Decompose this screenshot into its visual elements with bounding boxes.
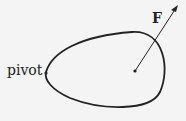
diagram: pivot F (0, 0, 186, 121)
body-outline (46, 32, 165, 107)
arrowhead-icon (171, 5, 178, 12)
force-label: F (152, 10, 162, 26)
pivot-point (44, 71, 47, 74)
pivot-label: pivot (7, 62, 42, 78)
